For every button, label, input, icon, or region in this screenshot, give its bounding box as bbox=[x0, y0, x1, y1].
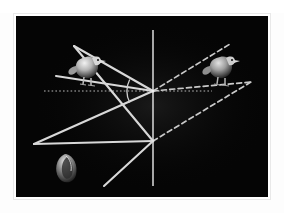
caption-strip bbox=[0, 0, 284, 13]
convergence-point-secondary bbox=[152, 140, 155, 143]
figure-root bbox=[0, 0, 284, 213]
ray-diagram-svg bbox=[16, 16, 268, 197]
bird-left-eye bbox=[97, 59, 99, 61]
convergence-point-primary bbox=[151, 89, 154, 92]
scene-panel bbox=[16, 16, 268, 197]
bird-right-eye bbox=[231, 59, 233, 61]
